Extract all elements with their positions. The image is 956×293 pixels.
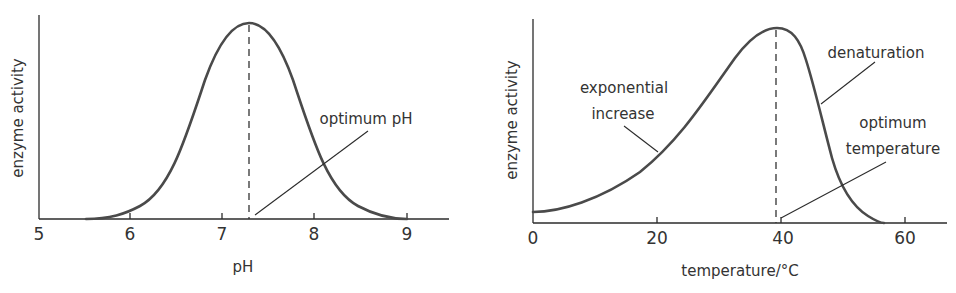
denaturation-pointer	[821, 62, 875, 104]
optimum-temperature-line2: temperature	[846, 140, 940, 158]
temp-tick-40: 40	[772, 228, 794, 248]
ph-tick-5: 5	[34, 224, 45, 244]
optimum-temperature-line1: optimum	[859, 114, 926, 132]
denaturation-annotation: denaturation	[828, 44, 925, 62]
exponential-annotation-line1: exponential	[580, 79, 668, 97]
figure: 5 6 7 8 9 pH enzyme activity optimum pH …	[0, 0, 956, 293]
ph-tick-6: 6	[125, 224, 136, 244]
ph-optimum-annotation: optimum pH	[319, 110, 412, 128]
ph-x-label: pH	[233, 258, 254, 276]
temp-tick-20: 20	[646, 228, 668, 248]
temp-y-label: enzyme activity	[503, 60, 521, 180]
ph-y-label: enzyme activity	[9, 58, 27, 178]
optimum-temperature-pointer	[781, 162, 886, 218]
temp-tick-60: 60	[894, 228, 916, 248]
ph-ticks	[130, 213, 407, 219]
ph-tick-7: 7	[217, 224, 228, 244]
ph-tick-9: 9	[402, 224, 413, 244]
ph-chart: 5 6 7 8 9 pH enzyme activity optimum pH	[9, 15, 449, 276]
exponential-annotation-line2: increase	[591, 105, 654, 123]
exponential-increase-pointer	[624, 126, 658, 152]
temp-x-label: temperature/°C	[681, 262, 798, 280]
temperature-chart: 0 20 40 60 temperature/°C enzyme activit…	[503, 19, 947, 280]
ph-tick-8: 8	[309, 224, 320, 244]
temp-tick-0: 0	[528, 228, 539, 248]
